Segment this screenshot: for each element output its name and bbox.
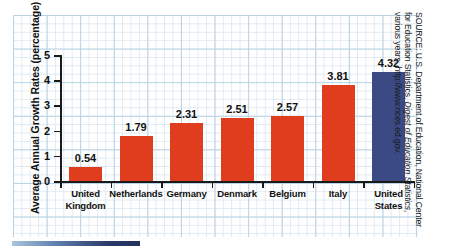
category-separator-3 xyxy=(212,181,214,188)
category-separator-6 xyxy=(363,181,365,188)
bar-rect-denmark xyxy=(221,118,254,181)
bar-rect-italy xyxy=(322,85,355,181)
bar-rect-belgium xyxy=(271,116,304,181)
bar-denmark[interactable]: 2.51 xyxy=(221,118,254,181)
bar-rect-germany xyxy=(170,123,203,181)
category-label-germany: Germany xyxy=(161,188,212,200)
category-label-line1: Netherlands xyxy=(108,188,164,200)
source-note-title: Digest of Education Statistics xyxy=(403,102,413,210)
category-separator-1 xyxy=(111,181,113,188)
category-label-line1: Germany xyxy=(161,188,212,200)
y-tick-5 xyxy=(54,55,60,57)
bar-value-netherlands: 1.79 xyxy=(125,122,146,133)
bar-belgium[interactable]: 2.57 xyxy=(271,116,304,181)
category-label-line1: Italy xyxy=(313,188,364,200)
category-label-netherlands: Netherlands xyxy=(108,188,164,200)
category-separator-2 xyxy=(161,181,163,188)
bottom-decorative-rule xyxy=(12,241,140,246)
category-separator-0 xyxy=(60,181,62,188)
y-tick-4 xyxy=(54,80,60,82)
x-axis-line xyxy=(60,181,414,183)
source-note: SOURCE: U.S. Department of Education, Na… xyxy=(384,12,424,236)
bar-rect-united-kingdom xyxy=(69,167,102,181)
bar-rect-netherlands xyxy=(120,136,153,181)
category-separator-5 xyxy=(313,181,315,188)
bar-netherlands[interactable]: 1.79 xyxy=(120,136,153,181)
bar-value-italy: 3.81 xyxy=(327,71,348,82)
y-axis-title: Average Annual Growth Rates (percentage) xyxy=(29,14,41,214)
category-label-belgium: Belgium xyxy=(262,188,313,200)
chart-figure: 5 4 3 2 1 0 Average Annual Growth Rates … xyxy=(0,0,471,248)
bar-germany[interactable]: 2.31 xyxy=(170,123,203,181)
bar-value-denmark: 2.51 xyxy=(226,104,247,115)
bar-value-united-kingdom: 0.54 xyxy=(75,153,96,164)
category-label-line1: Denmark xyxy=(212,188,263,200)
y-tick-1 xyxy=(54,156,60,158)
category-label-line1: United xyxy=(60,188,111,200)
y-tick-2 xyxy=(54,131,60,133)
category-separator-4 xyxy=(262,181,264,188)
category-label-italy: Italy xyxy=(313,188,364,200)
category-label-line2: Kingdom xyxy=(60,200,111,212)
bar-united-kingdom[interactable]: 0.54 xyxy=(69,167,102,181)
category-label-denmark: Denmark xyxy=(212,188,263,200)
bar-value-belgium: 2.57 xyxy=(277,102,298,113)
y-tick-3 xyxy=(54,105,60,107)
category-label-line1: Belgium xyxy=(262,188,313,200)
category-label-united-kingdom: United Kingdom xyxy=(60,188,111,211)
bar-value-germany: 2.31 xyxy=(176,109,197,120)
y-axis-line xyxy=(60,55,62,182)
bar-italy[interactable]: 3.81 xyxy=(322,85,355,181)
